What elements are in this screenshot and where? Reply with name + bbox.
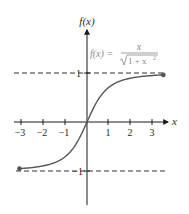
x-tick-label: 2: [128, 127, 133, 138]
x-tick-label: −3: [15, 127, 26, 138]
formula-lhs: f(x) =: [90, 48, 113, 60]
x-axis-label: x: [171, 115, 177, 127]
formula-exponent: 2: [153, 55, 156, 61]
x-tick-label: −2: [37, 127, 48, 138]
formula-annotation: f(x) = x 1 + x 2: [90, 41, 158, 66]
formula-numerator: x: [136, 41, 142, 52]
y-axis-label: f(x): [79, 15, 95, 28]
x-tick-label: 1: [106, 127, 111, 138]
y-tick-label-1: 1: [76, 68, 81, 79]
formula-denominator: 1 + x: [128, 56, 147, 66]
x-tick-label: −1: [59, 127, 70, 138]
function-plot: −3 −2 −1 1 2 3 1 −1 x f(x) f(x) = x 1 + …: [0, 0, 189, 214]
x-tick-label: 3: [150, 127, 155, 138]
y-tick-label-neg1: −1: [72, 166, 83, 177]
